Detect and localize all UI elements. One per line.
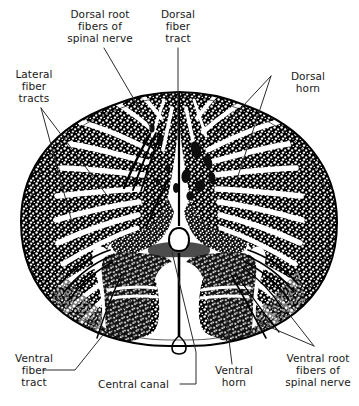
label-line: tract	[143, 32, 213, 44]
label-dorsal-horn: Dorsal horn	[272, 70, 344, 94]
label-line: fiber	[3, 80, 65, 92]
label-lateral-fiber-tracts: Lateral fiber tracts	[3, 68, 65, 105]
label-central-canal: Central canal	[98, 378, 182, 390]
label-line: Ventral	[203, 364, 265, 376]
label-line: Dorsal	[272, 70, 344, 82]
label-line: Lateral	[3, 68, 65, 80]
label-line: fibers of	[278, 364, 358, 376]
label-line: Central canal	[98, 378, 182, 390]
spinal-cord-illustration	[0, 0, 359, 406]
label-dorsal-root-fibers: Dorsal root fibers of spinal nerve	[48, 8, 152, 45]
label-line: horn	[272, 82, 344, 94]
label-ventral-root-fibers: Ventral root fibers of spinal nerve	[278, 352, 358, 389]
leader-ventral-root-b	[258, 322, 314, 346]
label-line: tracts	[3, 92, 65, 104]
label-line: fiber	[143, 20, 213, 32]
label-line: Dorsal root	[48, 8, 152, 20]
label-line: spinal nerve	[278, 376, 358, 388]
label-line: horn	[203, 376, 265, 388]
label-line: Ventral	[3, 352, 65, 364]
label-line: Ventral root	[278, 352, 358, 364]
label-line: fibers of	[48, 20, 152, 32]
central-canal	[169, 228, 189, 251]
label-line: tract	[3, 376, 65, 388]
spinal-cord-cross-section-figure: Dorsal root fibers of spinal nerve Dorsa…	[0, 0, 359, 406]
label-line: spinal nerve	[48, 32, 152, 44]
label-line: Dorsal	[143, 8, 213, 20]
label-line: fiber	[3, 364, 65, 376]
label-ventral-horn: Ventral horn	[203, 364, 265, 388]
label-dorsal-fiber-tract: Dorsal fiber tract	[143, 8, 213, 45]
label-ventral-fiber-tract: Ventral fiber tract	[3, 352, 65, 389]
